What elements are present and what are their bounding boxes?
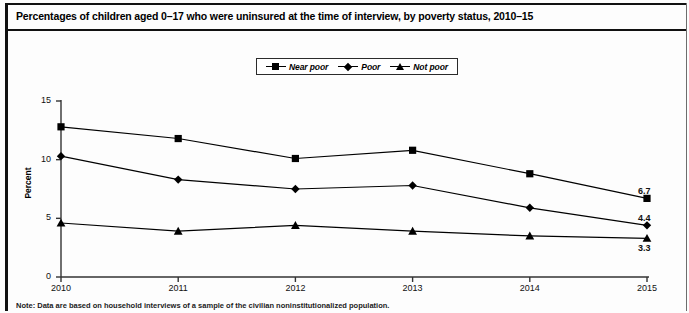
- figure-frame-left: [5, 3, 8, 311]
- diamond-marker-icon: [338, 62, 358, 71]
- x-tick-label: 2012: [275, 283, 315, 293]
- legend-item-near-poor[interactable]: Near poor: [266, 62, 328, 72]
- data-point-near-poor[interactable]: [526, 170, 533, 177]
- figure-frame-top: [5, 3, 687, 5]
- data-point-not-poor[interactable]: [525, 232, 534, 240]
- data-point-near-poor[interactable]: [175, 135, 182, 142]
- data-point-near-poor[interactable]: [409, 147, 416, 154]
- data-point-not-poor[interactable]: [643, 234, 652, 242]
- legend-item-not-poor[interactable]: Not poor: [390, 62, 448, 72]
- data-point-poor[interactable]: [408, 181, 416, 189]
- chart-svg: [0, 0, 689, 313]
- y-tick-label: 5: [29, 212, 51, 222]
- x-tick-label: 2011: [158, 283, 198, 293]
- series-line-near-poor: [61, 127, 647, 199]
- figure-container: Percentages of children aged 0–17 who we…: [0, 0, 689, 313]
- data-label-near-poor: 6.7: [638, 186, 651, 196]
- chart-title: Percentages of children aged 0–17 who we…: [16, 10, 677, 22]
- data-label-poor: 4.4: [638, 213, 651, 223]
- legend-label-not-poor: Not poor: [413, 62, 448, 72]
- y-tick-label: 10: [29, 154, 51, 164]
- figure-frame-right: [686, 3, 687, 311]
- chart-legend: Near poor Poor Not poor: [256, 58, 458, 75]
- x-tick-label: 2015: [627, 283, 667, 293]
- data-point-poor[interactable]: [526, 204, 534, 212]
- x-tick-label: 2014: [510, 283, 550, 293]
- title-divider: [8, 29, 686, 31]
- data-point-not-poor[interactable]: [174, 227, 183, 235]
- x-tick-label: 2013: [393, 283, 433, 293]
- data-point-not-poor[interactable]: [57, 219, 66, 227]
- plot-area: [0, 0, 689, 313]
- series-line-poor: [61, 156, 647, 225]
- y-tick-label: 0: [29, 271, 51, 281]
- data-point-poor[interactable]: [174, 175, 182, 183]
- data-point-poor[interactable]: [57, 152, 65, 160]
- data-point-poor[interactable]: [291, 185, 299, 193]
- triangle-marker-icon: [390, 62, 410, 71]
- data-point-not-poor[interactable]: [291, 221, 300, 229]
- x-tick-label: 2010: [41, 283, 81, 293]
- y-tick-label: 15: [29, 95, 51, 105]
- data-point-near-poor[interactable]: [57, 123, 64, 130]
- chart-footnote: Note: Data are based on household interv…: [16, 301, 681, 310]
- data-label-not-poor: 3.3: [638, 243, 651, 253]
- data-point-near-poor[interactable]: [292, 155, 299, 162]
- legend-label-near-poor: Near poor: [289, 62, 328, 72]
- series-line-not-poor: [61, 223, 647, 238]
- square-marker-icon: [266, 62, 286, 71]
- data-point-not-poor[interactable]: [408, 227, 417, 235]
- legend-label-poor: Poor: [361, 62, 380, 72]
- legend-item-poor[interactable]: Poor: [338, 62, 380, 72]
